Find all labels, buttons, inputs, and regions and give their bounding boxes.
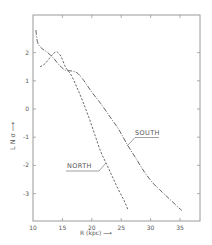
x-axis-label: R (kpc) ⟶ xyxy=(80,229,112,237)
north-series-line xyxy=(40,52,128,211)
x-tick-label: 10 xyxy=(29,224,37,231)
y-tick-label: -1 xyxy=(23,133,29,140)
south-series-line xyxy=(36,30,182,211)
x-tick-label: 15 xyxy=(59,224,67,231)
y-tick-label: 2 xyxy=(25,49,29,56)
y-tick-labels: 210-1-2-3 xyxy=(23,49,29,197)
south-leader-line xyxy=(127,138,159,147)
north-label: NORTH xyxy=(67,162,92,170)
y-tick-label: 1 xyxy=(25,77,29,84)
x-tick-label: 25 xyxy=(117,224,125,231)
y-axis-label: L N σ ⟶ xyxy=(9,122,17,150)
y-tick-label: -2 xyxy=(23,161,29,168)
south-label: SOUTH xyxy=(135,129,160,137)
x-tick-label: 35 xyxy=(176,224,184,231)
plot-frame xyxy=(33,15,200,221)
axis-ticks xyxy=(33,15,200,221)
chart-figure: 101520253035 210-1-2-3 SOUTH NORTH R (kp… xyxy=(0,0,212,245)
y-tick-label: 0 xyxy=(25,105,29,112)
x-tick-label: 30 xyxy=(147,224,155,231)
y-tick-label: -3 xyxy=(23,190,29,197)
